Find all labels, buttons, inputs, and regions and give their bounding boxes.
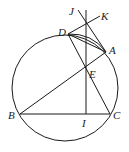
label-e: E [88,68,96,80]
label-k: K [100,10,109,22]
segment-ba [20,52,106,114]
geometry-diagram: J K D A E B I C [0,0,129,152]
label-c: C [113,109,121,121]
label-b: B [8,109,15,121]
label-a: A [108,44,116,56]
label-j: J [69,5,75,17]
circumcircle [12,35,118,141]
label-d: D [57,26,66,38]
label-i: I [81,117,87,129]
